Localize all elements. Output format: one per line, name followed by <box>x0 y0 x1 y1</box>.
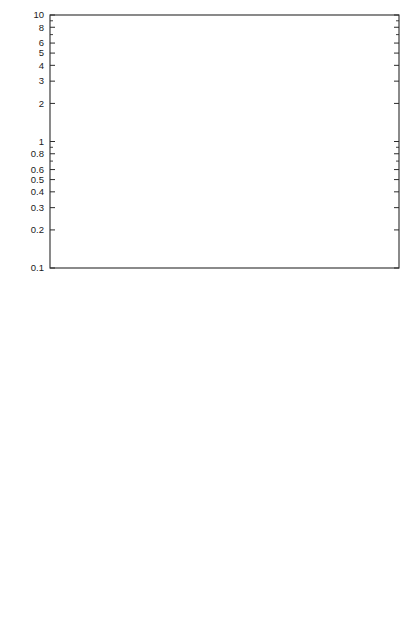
chart-svg-top: 0.10.20.30.40.50.60.8123456810 <box>0 0 417 315</box>
y-tick-label: 6 <box>39 37 44 48</box>
y-tick-label: 0.5 <box>31 174 44 185</box>
y-tick-label: 0.3 <box>31 202 44 213</box>
y-tick-label: 0.8 <box>31 148 44 159</box>
y-tick-label: 5 <box>39 47 44 58</box>
chart-svg-bottom <box>0 315 417 629</box>
y-tick-label: 0.6 <box>31 164 44 175</box>
y-tick-label: 2 <box>39 98 44 109</box>
axes-group: 0.10.20.30.40.50.60.8123456810 <box>31 9 399 273</box>
chart-panel-top: 0.10.20.30.40.50.60.8123456810 <box>0 0 417 315</box>
y-tick-label: 1 <box>39 136 44 147</box>
y-tick-label: 0.4 <box>31 186 44 197</box>
y-tick-label: 10 <box>33 9 44 20</box>
y-tick-label: 3 <box>39 75 44 86</box>
plot-frame <box>50 15 399 268</box>
y-tick-label: 8 <box>39 22 44 33</box>
figure-root: 0.10.20.30.40.50.60.8123456810 <box>0 0 417 629</box>
y-tick-label: 4 <box>39 60 44 71</box>
y-tick-label: 0.2 <box>31 224 44 235</box>
chart-panel-bottom <box>0 315 417 629</box>
y-tick-label: 0.1 <box>31 262 44 273</box>
